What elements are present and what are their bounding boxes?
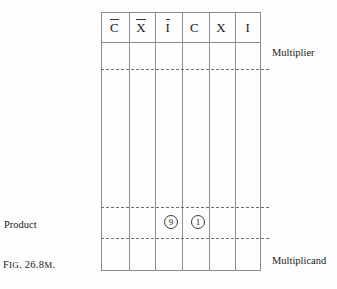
label-product: Product bbox=[4, 219, 37, 230]
column-separator-4 bbox=[209, 13, 210, 270]
label-multiplier: Multiplier bbox=[272, 47, 315, 58]
dashed-line-multiplier bbox=[101, 69, 269, 70]
column-separator-1 bbox=[129, 13, 130, 270]
figure-root: C X I C X I 9 1 Multiplier Multiplicand … bbox=[0, 0, 337, 289]
column-separator-2 bbox=[155, 13, 156, 270]
figure-caption-number: . 26.8 bbox=[19, 259, 44, 270]
circled-mark-i-bar: 9 bbox=[164, 215, 178, 229]
multiplication-grid bbox=[101, 12, 261, 271]
column-separator-5 bbox=[235, 13, 236, 270]
header-rule bbox=[102, 42, 260, 43]
figure-caption-end: . bbox=[52, 259, 55, 270]
label-multiplicand: Multiplicand bbox=[272, 255, 326, 266]
circled-mark-c: 1 bbox=[191, 215, 205, 229]
figure-caption-rest: IG bbox=[9, 260, 19, 270]
dashed-line-product-bottom bbox=[101, 238, 269, 239]
column-separator-3 bbox=[182, 13, 183, 270]
figure-caption: FIG. 26.8M. bbox=[3, 259, 55, 270]
dashed-line-product-top bbox=[101, 207, 269, 208]
